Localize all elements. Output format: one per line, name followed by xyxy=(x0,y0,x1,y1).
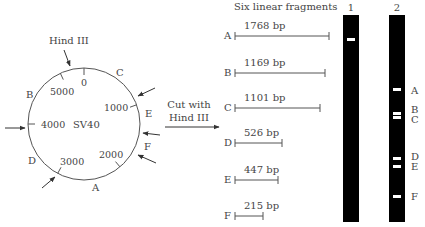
gel-label-a: A xyxy=(410,85,419,96)
fragment-label-a: A xyxy=(223,30,232,41)
lane-number-1: 1 xyxy=(348,2,354,13)
tick-2000 xyxy=(116,162,121,167)
tick-label-0: 0 xyxy=(81,77,87,88)
segment-label-d: D xyxy=(28,155,36,166)
fragment-bar-f xyxy=(235,212,263,220)
gel-band-b xyxy=(393,112,401,115)
gel-band-f xyxy=(393,195,401,198)
sv40-restriction-diagram: 0 1000 2000 3000 4000 5000 SV40 C E F A … xyxy=(0,0,425,227)
fragment-size-e: 447 bp xyxy=(244,164,279,175)
gel-band-uncut xyxy=(347,38,355,41)
gel-label-f: F xyxy=(411,191,418,202)
cut-arrow-icon xyxy=(64,50,70,66)
tick-label-5000: 5000 xyxy=(50,86,74,97)
fragment-size-d: 526 bp xyxy=(244,127,279,138)
fragment-size-a: 1768 bp xyxy=(244,20,285,31)
segment-label-a: A xyxy=(91,182,100,193)
cut-arrow-icon xyxy=(143,133,160,135)
segment-label-c: C xyxy=(116,67,124,78)
cut-arrow-icon xyxy=(138,155,156,163)
tick-label-1000: 1000 xyxy=(104,102,128,113)
tick-5000 xyxy=(60,73,63,79)
gel-lane-1 xyxy=(343,15,359,222)
tick-label-3000: 3000 xyxy=(60,156,84,167)
fragment-bar-e xyxy=(235,176,278,184)
fragment-label-f: F xyxy=(224,210,231,221)
cut-arrow-icon xyxy=(138,88,155,96)
fragment-bar-b xyxy=(235,69,325,77)
segment-label-f: F xyxy=(144,141,151,152)
fragments-title: Six linear fragments xyxy=(234,1,337,12)
fragment-bar-d xyxy=(235,139,282,147)
tick-label-2000: 2000 xyxy=(99,149,123,160)
tick-3000 xyxy=(58,167,61,173)
plasmid-name: SV40 xyxy=(73,119,100,130)
gel-band-e xyxy=(393,165,401,168)
fragment-label-d: D xyxy=(224,137,232,148)
fragment-bar-c xyxy=(235,104,320,112)
gel-label-e: E xyxy=(411,161,418,172)
linear-fragments: Six linear fragments A 1768 bp B 1169 bp… xyxy=(223,1,337,221)
fragment-label-c: C xyxy=(224,102,232,113)
sv40-circular-map: 0 1000 2000 3000 4000 5000 SV40 C E F A … xyxy=(5,35,160,193)
tick-1000 xyxy=(130,105,137,107)
segment-label-b: B xyxy=(26,89,33,100)
fragment-size-c: 1101 bp xyxy=(244,92,285,103)
gel-band-a xyxy=(393,88,401,91)
gel-electrophoresis: 1 2 A B C D E F xyxy=(343,2,419,222)
fragment-size-b: 1169 bp xyxy=(244,57,285,68)
fragment-label-b: B xyxy=(224,67,231,78)
cut-with-label: Cut with xyxy=(167,99,211,110)
cut-arrow-icon xyxy=(42,177,55,188)
lane-number-2: 2 xyxy=(394,2,400,13)
gel-label-c: C xyxy=(411,114,419,125)
fragment-size-f: 215 bp xyxy=(244,200,279,211)
fragment-label-e: E xyxy=(224,174,231,185)
digest-step: Cut with Hind III xyxy=(165,99,219,127)
gel-band-c xyxy=(393,116,401,119)
enzyme-label: Hind III xyxy=(169,112,209,123)
fragment-bar-a xyxy=(235,32,329,40)
gel-band-d xyxy=(393,157,401,160)
segment-label-e: E xyxy=(145,108,152,119)
tick-label-4000: 4000 xyxy=(41,119,65,130)
hind-iii-site-label: Hind III xyxy=(49,35,89,46)
